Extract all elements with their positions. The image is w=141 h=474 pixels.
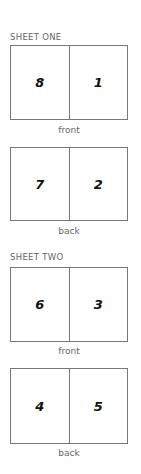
page-left: 7	[11, 148, 69, 220]
sheet-two-back: 4 5	[10, 368, 128, 444]
page-left: 8	[11, 46, 69, 119]
sheet-two-label: SHEET TWO	[10, 252, 63, 262]
sheet-two-front: 6 3	[10, 267, 128, 342]
sheet-one-back: 7 2	[10, 147, 128, 221]
page-right: 1	[69, 46, 128, 119]
page-right: 3	[69, 268, 128, 341]
sheet-one-label: SHEET ONE	[10, 32, 62, 42]
caption-back: back	[10, 448, 128, 458]
caption-front: front	[10, 346, 128, 356]
sheet-one-front: 8 1	[10, 45, 128, 120]
page-left: 4	[11, 369, 69, 443]
page-left: 6	[11, 268, 69, 341]
caption-front: front	[10, 125, 128, 135]
caption-back: back	[10, 226, 128, 236]
page-right: 2	[69, 148, 128, 220]
page-right: 5	[69, 369, 128, 443]
